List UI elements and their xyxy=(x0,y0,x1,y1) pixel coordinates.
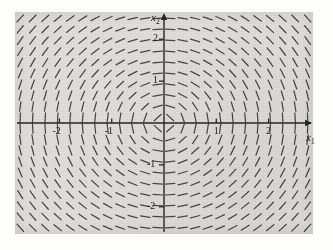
field-segment xyxy=(80,70,86,78)
field-segment xyxy=(79,203,86,209)
field-segment xyxy=(193,103,198,111)
field-segment xyxy=(228,16,236,20)
field-segment xyxy=(104,60,112,66)
field-segment xyxy=(70,113,71,122)
field-segment xyxy=(128,61,137,65)
field-segment xyxy=(244,135,246,144)
field-segment xyxy=(92,158,97,166)
field-segment xyxy=(268,69,273,77)
field-segment xyxy=(141,40,150,42)
field-segment xyxy=(165,150,174,152)
field-segment xyxy=(55,48,61,55)
field-segment xyxy=(54,225,61,231)
field-segment xyxy=(280,37,286,44)
field-segment xyxy=(43,168,47,176)
field-segment xyxy=(292,202,298,209)
field-segment xyxy=(67,48,74,55)
field-segment xyxy=(266,15,273,21)
field-segment xyxy=(203,226,212,229)
field-segment xyxy=(292,15,299,22)
field-segment xyxy=(181,124,184,133)
field-segment xyxy=(294,91,296,100)
field-segment xyxy=(81,146,85,155)
field-segment xyxy=(216,17,225,21)
field-segment xyxy=(128,182,137,186)
field-segment xyxy=(243,80,248,88)
field-segment xyxy=(70,124,71,133)
field-segment xyxy=(178,148,186,153)
field-segment xyxy=(292,224,299,231)
field-segment xyxy=(304,224,310,231)
field-segment xyxy=(165,62,174,63)
field-segment xyxy=(29,15,36,22)
field-segment xyxy=(116,71,124,76)
field-segment xyxy=(19,146,21,155)
field-segment xyxy=(307,91,309,100)
field-segment xyxy=(267,59,273,67)
field-segment xyxy=(179,103,186,109)
field-segment xyxy=(204,81,211,87)
field-segment xyxy=(92,59,99,65)
field-segment xyxy=(191,215,200,217)
field-segment xyxy=(230,81,235,89)
field-segment xyxy=(93,146,97,154)
field-segment xyxy=(178,171,187,174)
field-segment xyxy=(18,69,22,78)
field-segment xyxy=(44,135,46,144)
field-segment xyxy=(207,113,208,122)
field-segment xyxy=(229,214,237,219)
field-segment xyxy=(216,60,224,66)
field-segment xyxy=(243,146,247,155)
field-segment xyxy=(267,48,273,55)
field-segment xyxy=(128,215,137,217)
field-segment xyxy=(166,138,175,141)
field-segment xyxy=(132,124,134,133)
field-segment xyxy=(31,69,35,78)
field-segment xyxy=(42,191,48,199)
field-segment xyxy=(165,40,174,41)
field-segment xyxy=(305,47,310,55)
field-segment xyxy=(178,183,187,185)
field-segment xyxy=(231,102,234,111)
field-segment xyxy=(191,28,200,30)
field-segment xyxy=(104,38,112,43)
field-segment xyxy=(82,113,83,122)
field-segment xyxy=(216,27,225,31)
field-segment xyxy=(67,180,73,187)
field-segment xyxy=(104,181,112,187)
field-segment xyxy=(55,59,61,67)
field-segment xyxy=(57,135,59,144)
field-segment xyxy=(116,49,125,53)
field-segment xyxy=(178,29,187,30)
field-segment xyxy=(42,48,48,56)
field-segment xyxy=(91,49,99,55)
field-segment xyxy=(128,170,136,174)
field-segment xyxy=(91,192,99,198)
field-segment xyxy=(18,179,22,187)
field-segment xyxy=(165,95,174,97)
field-segment xyxy=(67,37,74,43)
field-segment xyxy=(267,180,273,188)
field-segment xyxy=(229,169,235,176)
field-segment xyxy=(55,180,61,188)
field-segment xyxy=(292,26,298,33)
field-segment xyxy=(204,158,211,164)
field-segment xyxy=(216,181,224,187)
field-segment xyxy=(32,135,33,144)
field-segment xyxy=(241,214,249,219)
field-segment xyxy=(68,157,72,165)
field-segment xyxy=(281,157,285,166)
field-segment xyxy=(30,213,36,220)
field-segment xyxy=(55,69,60,77)
field-segment xyxy=(119,113,120,122)
field-segment xyxy=(231,135,234,144)
field-segment xyxy=(191,17,200,19)
y-tick-label: -1 xyxy=(147,158,155,169)
field-segment xyxy=(153,29,162,30)
field-segment xyxy=(269,102,271,111)
field-segment xyxy=(43,69,47,77)
field-segment xyxy=(255,157,259,165)
field-segment xyxy=(94,102,97,111)
field-segment xyxy=(191,159,199,164)
field-segment xyxy=(93,91,97,100)
